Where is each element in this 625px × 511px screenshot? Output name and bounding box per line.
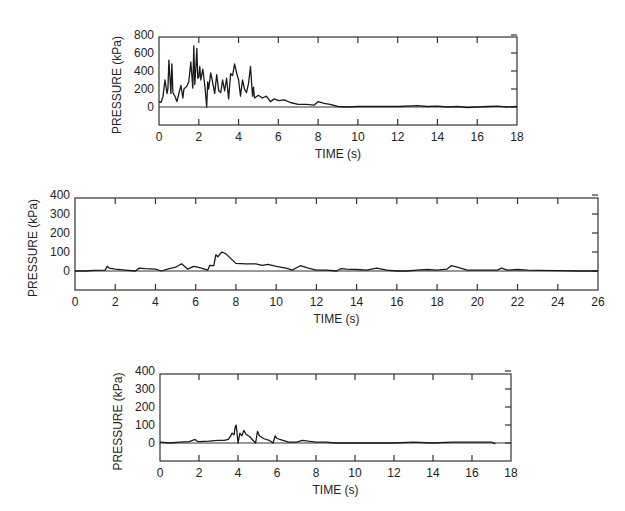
x-tick-label: 26 (591, 295, 605, 309)
x-tick-label: 0 (157, 466, 164, 480)
x-tick-label: 4 (235, 130, 242, 144)
x-tick-label: 8 (313, 466, 320, 480)
y-tick-label: 0 (148, 436, 155, 450)
x-tick-label: 12 (387, 466, 401, 480)
y-tick-label: 400 (50, 188, 70, 202)
y-tick-label: 200 (50, 226, 70, 240)
x-tick-label: 6 (192, 295, 199, 309)
y-axis-label: PRESSURE (kPa) (111, 372, 125, 470)
x-tick-label: 20 (471, 295, 485, 309)
x-tick-label: 2 (195, 130, 202, 144)
x-tick-label: 16 (390, 295, 404, 309)
x-tick-label: 16 (465, 466, 479, 480)
y-tick-label: 300 (135, 382, 155, 396)
x-tick-label: 2 (196, 466, 203, 480)
plot-frame (160, 374, 511, 461)
plot-frame (75, 198, 598, 290)
x-tick-label: 6 (275, 130, 282, 144)
figure-canvas: 0246810121416180200400600800TIME (s)PRES… (0, 0, 625, 511)
y-tick-label: 400 (135, 364, 155, 378)
x-tick-label: 10 (348, 466, 362, 480)
x-tick-label: 4 (152, 295, 159, 309)
x-tick-label: 14 (431, 130, 445, 144)
x-tick-label: 14 (426, 466, 440, 480)
y-tick-label: 400 (134, 64, 154, 78)
x-tick-label: 0 (72, 295, 79, 309)
pressure-trace (160, 425, 495, 444)
x-tick-label: 10 (351, 130, 365, 144)
y-tick-label: 600 (134, 46, 154, 60)
y-tick-label: 100 (135, 418, 155, 432)
x-tick-label: 12 (391, 130, 405, 144)
x-axis-label: TIME (s) (313, 483, 359, 497)
x-tick-label: 2 (112, 295, 119, 309)
y-tick-label: 0 (147, 100, 154, 114)
x-tick-label: 22 (511, 295, 525, 309)
y-axis-label: PRESSURE (kPa) (26, 199, 40, 297)
x-tick-label: 18 (504, 466, 518, 480)
chart-1: 0246810121416180200400600800TIME (s)PRES… (110, 28, 524, 161)
y-axis-label: PRESSURE (kPa) (110, 36, 124, 134)
x-tick-label: 10 (269, 295, 283, 309)
x-tick-label: 12 (310, 295, 324, 309)
x-tick-label: 16 (471, 130, 485, 144)
x-tick-label: 18 (430, 295, 444, 309)
x-tick-label: 18 (510, 130, 524, 144)
x-axis-label: TIME (s) (315, 147, 361, 161)
y-tick-label: 200 (135, 400, 155, 414)
x-tick-label: 4 (235, 466, 242, 480)
y-tick-label: 800 (134, 28, 154, 42)
chart-3: 0246810121416180100200300400TIME (s)PRES… (111, 364, 518, 497)
x-tick-label: 0 (156, 130, 163, 144)
pressure-trace (75, 252, 598, 271)
x-tick-label: 6 (274, 466, 281, 480)
pressure-trace (159, 46, 517, 108)
y-tick-label: 200 (134, 82, 154, 96)
chart-2: 024681012141618202224260100200300400TIME… (26, 188, 605, 326)
x-tick-label: 24 (551, 295, 565, 309)
y-tick-label: 0 (63, 264, 70, 278)
y-tick-label: 100 (50, 245, 70, 259)
x-tick-label: 8 (233, 295, 240, 309)
x-tick-label: 8 (315, 130, 322, 144)
x-tick-label: 14 (350, 295, 364, 309)
y-tick-label: 300 (50, 207, 70, 221)
x-axis-label: TIME (s) (314, 312, 360, 326)
